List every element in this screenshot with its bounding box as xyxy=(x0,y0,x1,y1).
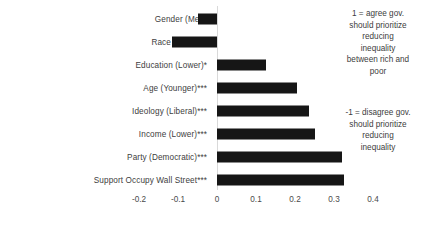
x-axis-tick-label: 0.2 xyxy=(289,195,300,204)
category-label: Age (Younger)*** xyxy=(143,83,207,92)
x-axis: -0.2-0.100.10.20.30.4 xyxy=(0,195,434,211)
annotation-negative-line: should prioritize xyxy=(324,119,432,131)
bar xyxy=(198,13,218,24)
x-axis-tick-label: 0.1 xyxy=(250,195,261,204)
annotation-negative-line: reducing xyxy=(324,130,432,142)
bar xyxy=(217,174,344,185)
bar-row: Age (Younger)*** xyxy=(0,76,434,99)
annotation-positive-line: poor xyxy=(324,66,432,78)
annotation-positive-line: between rich and xyxy=(324,54,432,66)
bar-row: Support Occupy Wall Street*** xyxy=(0,168,434,191)
annotation-positive-line: should prioritize xyxy=(324,20,432,32)
x-axis-tick-label: 0.3 xyxy=(328,195,339,204)
annotation-negative-line: inequality xyxy=(324,142,432,154)
annotation-positive-line: 1 = agree gov. xyxy=(324,8,432,20)
x-axis-tick-label: 0.4 xyxy=(367,195,378,204)
bar xyxy=(217,82,297,93)
x-axis-tick-label: -0.2 xyxy=(132,195,146,204)
annotation-positive-line: inequality xyxy=(324,43,432,55)
bar xyxy=(217,128,315,139)
category-label: Ideology (Liberal)*** xyxy=(132,106,207,115)
annotation-negative-line: -1 = disagree gov. xyxy=(324,107,432,119)
category-label: Party (Democratic)*** xyxy=(127,152,207,161)
bar xyxy=(217,59,266,70)
bar xyxy=(217,105,309,116)
x-axis-tick-label: 0 xyxy=(215,195,220,204)
category-label: Education (Lower)* xyxy=(136,60,207,69)
annotation-positive-scale: 1 = agree gov.should prioritizereducingi… xyxy=(324,8,432,78)
bar xyxy=(172,36,217,47)
category-label: Income (Lower)*** xyxy=(139,129,207,138)
annotation-positive-line: reducing xyxy=(324,31,432,43)
annotation-negative-scale: -1 = disagree gov.should prioritizereduc… xyxy=(324,107,432,153)
category-label: Support Occupy Wall Street*** xyxy=(94,175,207,184)
x-axis-tick-label: -0.1 xyxy=(171,195,185,204)
chart-container: Gender (Men)Race (White)**Education (Low… xyxy=(0,0,434,230)
